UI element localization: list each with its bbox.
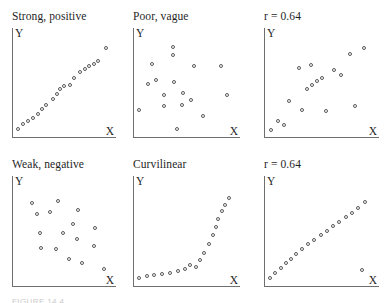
data-point — [39, 246, 43, 250]
x-axis-line — [264, 286, 379, 287]
plot-area: Y X — [264, 28, 379, 138]
data-point — [211, 233, 215, 237]
panel-r-064-bottom: r = 0.64 Y X — [264, 158, 382, 287]
data-point — [279, 266, 283, 270]
data-point — [273, 271, 277, 275]
data-point — [104, 46, 108, 50]
data-point — [171, 45, 175, 49]
data-point — [356, 206, 360, 210]
data-point — [315, 79, 319, 83]
data-point — [305, 87, 309, 91]
data-point — [76, 208, 80, 212]
x-axis-label: X — [369, 126, 377, 138]
data-point — [227, 196, 231, 200]
plot-area: Y X — [133, 28, 240, 138]
data-point — [276, 119, 280, 123]
data-point — [36, 112, 40, 116]
data-point — [332, 68, 336, 72]
data-point — [154, 78, 158, 82]
y-axis-line — [12, 176, 13, 287]
data-point — [61, 231, 65, 235]
panel-poor-vague: Poor, vague Y X — [133, 10, 243, 138]
data-point — [172, 80, 176, 84]
data-point — [344, 215, 348, 219]
x-axis-line — [264, 137, 379, 138]
data-point — [30, 201, 34, 205]
data-point — [152, 273, 156, 277]
data-point — [175, 127, 179, 131]
data-point — [269, 128, 273, 132]
data-point — [102, 267, 106, 271]
data-point — [325, 229, 329, 233]
data-point — [180, 103, 184, 107]
data-point — [56, 199, 60, 203]
data-point — [214, 225, 218, 229]
data-point — [289, 257, 293, 261]
data-point — [54, 247, 58, 251]
panel-title: r = 0.64 — [264, 158, 301, 171]
data-point — [310, 83, 314, 87]
data-point — [83, 67, 87, 71]
x-axis-label: X — [106, 275, 114, 287]
data-point — [16, 127, 20, 131]
data-point — [220, 209, 224, 213]
data-point — [312, 238, 316, 242]
data-point — [339, 73, 343, 77]
data-point — [300, 247, 304, 251]
data-point — [360, 268, 364, 272]
data-point — [306, 242, 310, 246]
data-point — [72, 76, 76, 80]
data-point — [75, 237, 79, 241]
y-axis-line — [133, 176, 134, 287]
panel-title: r = 0.64 — [264, 10, 301, 23]
data-point — [331, 224, 335, 228]
x-axis-label: X — [230, 275, 238, 287]
data-point — [202, 251, 206, 255]
data-point — [189, 98, 193, 102]
data-point — [176, 269, 180, 273]
data-point — [225, 93, 229, 97]
data-point — [31, 116, 35, 120]
data-point — [319, 233, 323, 237]
data-point — [78, 70, 82, 74]
data-point — [192, 64, 196, 68]
data-point — [71, 222, 75, 226]
data-point — [38, 231, 42, 235]
data-point — [300, 108, 304, 112]
data-point — [181, 91, 185, 95]
y-axis-line — [133, 28, 134, 138]
data-point — [320, 76, 324, 80]
data-point — [324, 109, 328, 113]
x-axis-line — [12, 286, 116, 287]
data-point — [198, 258, 202, 262]
plot-area: Y X — [264, 176, 379, 287]
data-point — [337, 220, 341, 224]
y-axis-label: Y — [136, 176, 144, 188]
panel-title: Weak, negative — [12, 158, 84, 171]
data-point — [162, 93, 166, 97]
data-point — [40, 107, 44, 111]
data-point — [201, 114, 205, 118]
x-axis-line — [133, 137, 240, 138]
panel-title: Poor, vague — [133, 10, 189, 23]
data-point — [297, 66, 301, 70]
x-axis-line — [12, 137, 116, 138]
data-point — [348, 52, 352, 56]
y-axis-line — [264, 28, 265, 138]
data-point — [162, 104, 166, 108]
panel-title: Strong, positive — [12, 10, 86, 23]
data-point — [287, 99, 291, 103]
data-point — [93, 226, 97, 230]
data-point — [350, 211, 354, 215]
data-point — [92, 62, 96, 66]
data-point — [284, 261, 288, 265]
y-axis-label: Y — [15, 28, 23, 40]
data-point — [207, 242, 211, 246]
data-point — [62, 84, 66, 88]
x-axis-label: X — [369, 275, 377, 287]
data-point — [150, 62, 154, 66]
data-point — [194, 265, 198, 269]
data-point — [183, 267, 187, 271]
panel-weak-negative: Weak, negative Y X — [12, 158, 122, 287]
